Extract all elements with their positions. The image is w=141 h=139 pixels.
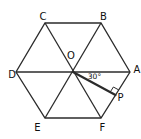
angle-label-30: 30° bbox=[88, 72, 102, 81]
center-label-o: O bbox=[67, 50, 75, 61]
vertex-label-c: C bbox=[40, 11, 47, 22]
vertex-label-d: D bbox=[8, 69, 16, 80]
vertex-label-a: A bbox=[134, 64, 141, 75]
vertex-label-f: F bbox=[100, 122, 106, 133]
hexagon-figure-canvas: C B D A O E F P 30° bbox=[0, 0, 141, 139]
vertex-label-e: E bbox=[34, 122, 40, 133]
hexagon-diagram-svg: C B D A O E F P 30° bbox=[0, 0, 141, 139]
point-label-p: P bbox=[117, 92, 123, 103]
vertex-label-b: B bbox=[100, 11, 107, 22]
